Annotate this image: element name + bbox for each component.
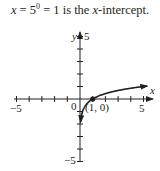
x-tick-label-neg5: −5 [10, 102, 22, 114]
y-axis-label: y [71, 30, 77, 42]
log-curve-asymptote-arrow [81, 107, 85, 122]
point-label: (1, 0) [85, 101, 109, 114]
y-axis [77, 32, 83, 162]
x-axis-label: x [149, 84, 155, 96]
y-tick-label-5: 5 [84, 30, 90, 42]
x-axis [14, 96, 153, 102]
origin-label: 0 [71, 100, 77, 112]
y-tick-label-neg5: −5 [64, 154, 76, 166]
x-tick-label-5: 5 [139, 102, 145, 114]
chart-plot: y 5 −5 x −5 5 0 (1, 0) [0, 0, 160, 171]
